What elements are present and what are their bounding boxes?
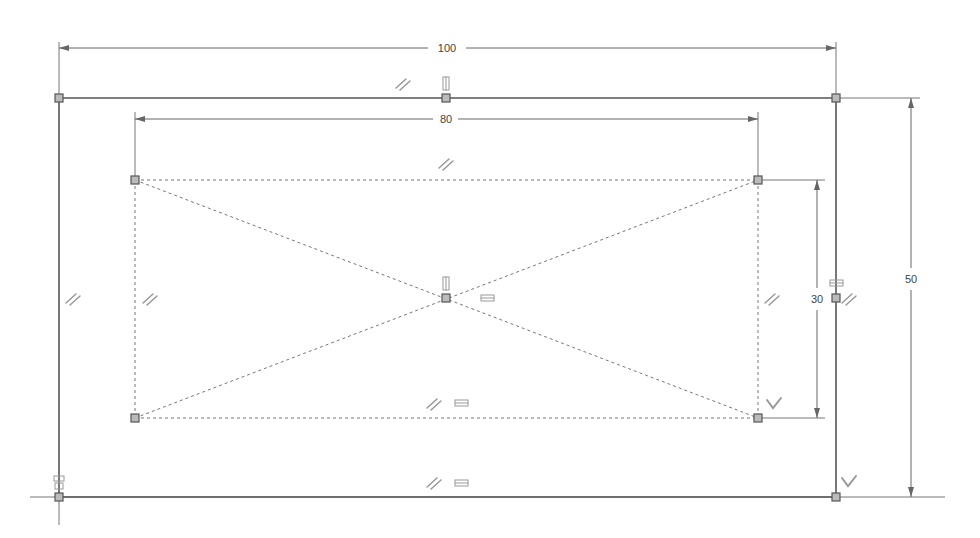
dimension-30[interactable]: 30 bbox=[811, 180, 823, 418]
point-outer-right-mid[interactable] bbox=[832, 294, 840, 302]
point-inner-top-left[interactable] bbox=[131, 176, 139, 184]
horizontal-constraint-icon[interactable] bbox=[455, 480, 468, 486]
perpendicular-constraint-icon[interactable] bbox=[767, 398, 781, 408]
vertical-constraint-icon[interactable] bbox=[443, 77, 449, 90]
parallel-constraint-icon[interactable] bbox=[765, 294, 779, 305]
point-inner-bottom-right[interactable] bbox=[754, 414, 762, 422]
extension-lines bbox=[30, 42, 945, 525]
parallel-constraint-icon[interactable] bbox=[396, 79, 410, 90]
point-outer-bottom-left[interactable] bbox=[55, 493, 63, 501]
point-center[interactable] bbox=[442, 294, 450, 302]
dimension-80-label[interactable]: 80 bbox=[440, 113, 452, 125]
point-inner-top-right[interactable] bbox=[754, 176, 762, 184]
dimension-50-label[interactable]: 50 bbox=[905, 273, 917, 285]
point-inner-bottom-left[interactable] bbox=[131, 414, 139, 422]
parallel-constraint-icon[interactable] bbox=[842, 294, 856, 305]
point-outer-top-mid[interactable] bbox=[442, 94, 450, 102]
dimension-50[interactable]: 50 bbox=[905, 98, 917, 497]
dimension-100[interactable]: 100 bbox=[59, 42, 836, 54]
vertical-constraint-icon[interactable] bbox=[443, 277, 449, 290]
horizontal-constraint-icon[interactable] bbox=[455, 400, 468, 406]
perpendicular-constraint-icon[interactable] bbox=[842, 476, 856, 486]
dimension-100-label[interactable]: 100 bbox=[438, 42, 456, 54]
point-outer-top-left[interactable] bbox=[55, 94, 63, 102]
point-outer-bottom-right[interactable] bbox=[832, 493, 840, 501]
point-outer-top-right[interactable] bbox=[832, 94, 840, 102]
dimension-80[interactable]: 80 bbox=[135, 113, 758, 125]
parallel-constraint-icon[interactable] bbox=[439, 159, 453, 170]
horizontal-constraint-icon[interactable] bbox=[481, 295, 494, 301]
sketch-canvas[interactable]: 100 80 50 30 bbox=[0, 0, 980, 538]
parallel-constraint-icon[interactable] bbox=[427, 399, 441, 410]
parallel-constraint-icon[interactable] bbox=[427, 478, 441, 489]
sketch-points[interactable] bbox=[55, 94, 840, 501]
dimension-30-label[interactable]: 30 bbox=[811, 293, 823, 305]
parallel-constraint-icon[interactable] bbox=[66, 294, 80, 305]
parallel-constraint-icon[interactable] bbox=[143, 294, 157, 305]
